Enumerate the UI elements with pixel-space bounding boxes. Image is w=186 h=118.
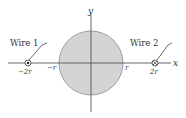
wire-1-symbol [25, 60, 31, 66]
minus-r-label: −r [47, 64, 57, 72]
current-out-dot-icon [27, 62, 29, 64]
r-label: r [125, 64, 129, 72]
minus-2r-label: −2r [18, 68, 32, 76]
y-axis-label: y [87, 6, 94, 16]
wire-2-symbol [152, 60, 158, 66]
x-axis-label: x [173, 58, 178, 68]
wire-2-pointer [157, 43, 172, 60]
wire-2-label: Wire 2 [130, 38, 159, 48]
wire-cylinder-diagram: y x −r r Wire 1 −2r Wire 2 2r [0, 0, 186, 118]
2r-label: 2r [149, 68, 158, 76]
wire-1-label: Wire 1 [10, 38, 39, 48]
